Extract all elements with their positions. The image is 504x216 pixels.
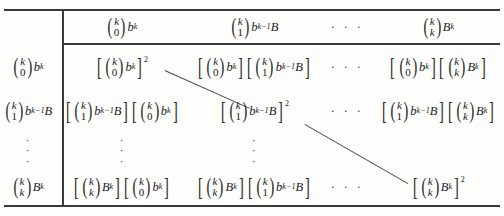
horizontal-dots-icon: ··· (331, 105, 361, 117)
right-bracket-icon: ] (278, 102, 283, 120)
header-cell-tk: (kk)Bk (372, 16, 504, 38)
vertical-dots-icon: ··· (26, 138, 30, 165)
binom-k-k-icon: (kk) (205, 176, 225, 198)
cell-r2c1: [ (k1)bk−1B ] [ (k0)bk ] (55, 100, 187, 122)
left-bracket-icon: [ (74, 178, 79, 196)
exponent-two: 2 (144, 56, 148, 64)
right-bracket-icon: ] (238, 58, 243, 76)
right-bracket-icon: ] (164, 178, 169, 196)
row-3-ellipsis: ··· (320, 181, 372, 193)
horizontal-dots-icon: ··· (331, 21, 361, 33)
row-2-ellipsis: ··· (320, 105, 372, 117)
right-bracket-icon: ] (431, 58, 436, 76)
binom-k-k-icon: (kk) (420, 176, 440, 198)
cell-r3c3: [ (kk)Bk ]2 (372, 176, 504, 198)
cell-r2c2: [ (k1)bk−1B ]2 (188, 100, 320, 122)
row-1-ellipsis: ··· (320, 61, 372, 73)
cell-r1c1: [ (k0)bk ]2 (55, 56, 187, 78)
binom-k-0-icon: (k0) (398, 56, 419, 78)
binom-k-1-icon: (k1) (73, 100, 94, 122)
table-header-row: (k0)bk (k1)bk−1B ··· (kk)Bk (0, 14, 504, 40)
binom-k-0-icon: (k0) (12, 56, 33, 78)
horizontal-dots-icon: ··· (331, 181, 361, 193)
left-bracket-icon: [ (132, 102, 137, 120)
row-label-ellipsis: ··· (0, 138, 55, 165)
left-bracket-icon: [ (413, 178, 418, 196)
left-bracket-icon: [ (247, 178, 252, 196)
left-bracket-icon: [ (198, 178, 203, 196)
cell-r3c1: [ (kk)Bk ] [ (k0)bk ] (55, 176, 187, 198)
right-bracket-icon: ] (137, 58, 142, 76)
row-label-t0: (k0)bk (0, 56, 55, 78)
binom-k-0-icon: (k0) (205, 56, 226, 78)
left-bracket-icon: [ (390, 58, 395, 76)
binom-k-k-icon: (kk) (422, 16, 442, 38)
cell-col2-ellipsis: ··· (188, 138, 320, 165)
left-bracket-icon: [ (124, 178, 129, 196)
binom-k-0-icon: (k0) (131, 176, 152, 198)
right-bracket-icon: ] (489, 102, 494, 120)
table-row: (k1)bk−1B [ (k1)bk−1B ] [ (k0)bk ] [ (k1… (0, 96, 504, 126)
right-bracket-icon: ] (439, 102, 444, 120)
vertical-dots-icon: ··· (120, 138, 124, 165)
table-grid: (k0)bk (k1)bk−1B ··· (kk)Bk (k0)b (0, 0, 504, 216)
right-bracket-icon: ] (239, 178, 244, 196)
cell-r2c3: [ (k1)bk−1B ] [ (kk)Bk ] (372, 100, 504, 122)
left-bracket-icon: [ (247, 58, 252, 76)
cell-r3c2: [ (kk)Bk ] [ (k1)bk−1B ] (188, 176, 320, 198)
header-cell-t0: (k0)bk (55, 16, 187, 38)
right-bracket-icon: ] (481, 58, 486, 76)
left-bracket-icon: [ (198, 58, 203, 76)
math-table-figure: (k0)bk (k1)bk−1B ··· (kk)Bk (k0)b (0, 0, 504, 216)
left-bracket-icon: [ (66, 102, 71, 120)
right-bracket-icon: ] (305, 58, 310, 76)
binom-k-0-icon: (k0) (104, 56, 125, 78)
left-bracket-icon: [ (221, 102, 226, 120)
left-bracket-icon: [ (382, 102, 387, 120)
row-label-t1: (k1)bk−1B (0, 100, 55, 122)
cell-r1c2: [ (k0)bk ] [ (k1)bk−1B ] (188, 56, 320, 78)
right-bracket-icon: ] (173, 102, 178, 120)
left-bracket-icon: [ (97, 58, 102, 76)
exponent-two: 2 (285, 100, 289, 108)
right-bracket-icon: ] (115, 178, 120, 196)
header-cell-t1: (k1)bk−1B (188, 16, 320, 38)
cell-col1-ellipsis: ··· (55, 138, 187, 165)
binom-k-1-icon: (k1) (230, 16, 251, 38)
right-bracket-icon: ] (454, 178, 459, 196)
binom-k-k-icon: (kk) (81, 176, 101, 198)
binom-k-1-icon: (k1) (254, 56, 275, 78)
table-row: (k0)bk [ (k0)bk ]2 [ (k0)bk ] [ (k1)bk−1… (0, 52, 504, 82)
right-bracket-icon: ] (123, 102, 128, 120)
header-ellipsis: ··· (320, 21, 372, 33)
left-bracket-icon: [ (448, 102, 453, 120)
cell-r1c3: [ (k0)bk ] [ (kk)Bk ] (372, 56, 504, 78)
binom-k-k-icon: (kk) (12, 176, 32, 198)
binom-k-0-icon: (k0) (106, 16, 127, 38)
left-bracket-icon: [ (439, 58, 444, 76)
binom-k-0-icon: (k0) (139, 100, 160, 122)
binom-k-1-icon: (k1) (389, 100, 410, 122)
vertical-dots-icon: ··· (252, 138, 256, 165)
table-row: (kk)Bk [ (kk)Bk ] [ (k0)bk ] [ (kk)Bk ] (0, 172, 504, 202)
horizontal-dots-icon: ··· (331, 61, 361, 73)
row-label-tk: (kk)Bk (0, 176, 55, 198)
binom-k-k-icon: (kk) (447, 56, 467, 78)
binom-k-k-icon: (kk) (455, 100, 475, 122)
right-bracket-icon: ] (305, 178, 310, 196)
binom-k-1-icon: (k1) (228, 100, 249, 122)
binom-k-1-icon: (k1) (4, 100, 25, 122)
exponent-two: 2 (461, 176, 465, 184)
binom-k-1-icon: (k1) (255, 176, 276, 198)
table-ellipsis-row: ··· ··· ··· (0, 134, 504, 168)
